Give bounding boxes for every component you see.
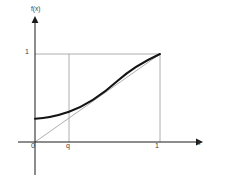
y-tick-label-1: 1 (25, 48, 29, 55)
function-plot-figure: f(x) x 0 q 1 1 (0, 0, 232, 181)
function-curve (35, 54, 160, 119)
plot-canvas (0, 0, 232, 181)
y-axis-title: f(x) (31, 6, 40, 13)
x-axis-title: x (197, 140, 200, 147)
y-axis-arrow-icon (32, 16, 39, 23)
x-tick-label-0: 0 (31, 142, 35, 149)
x-tick-label-1: 1 (155, 142, 159, 149)
x-tick-label-q: q (66, 142, 70, 149)
